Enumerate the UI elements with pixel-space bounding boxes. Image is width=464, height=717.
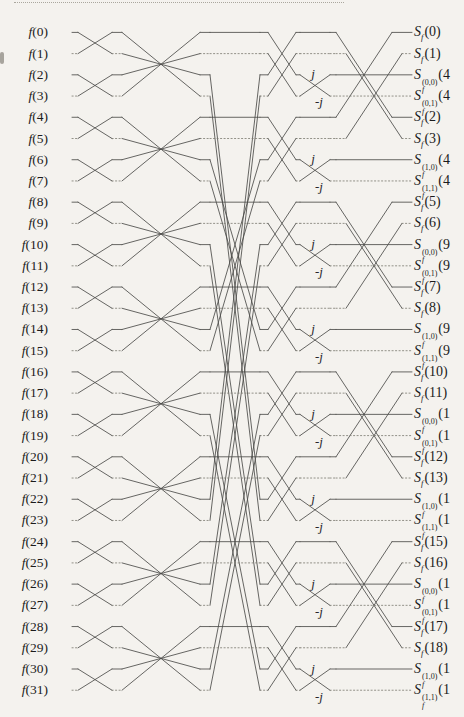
output-label: Sf(16) (414, 554, 448, 572)
output-label: S(1,0)f(9 (414, 320, 450, 338)
output-label: Sf(12) (414, 448, 448, 466)
input-label: f(20) (0, 448, 48, 466)
output-label: S(1,1)f(4 (414, 172, 450, 190)
multiplier-minus-j-label: -j (308, 349, 330, 365)
input-label: f(17) (0, 384, 48, 402)
input-label: f(26) (0, 575, 48, 593)
input-label: f(31) (0, 681, 48, 699)
input-label: f(14) (0, 320, 48, 338)
input-label: f(12) (0, 278, 48, 296)
output-label: S(0,0)f(9 (414, 236, 450, 254)
input-label: f(9) (0, 214, 48, 232)
butterfly-diagram-page: f(0)f(1)f(2)f(3)f(4)f(5)f(6)f(7)f(8)f(9)… (0, 0, 464, 717)
multiplier-j-label: j (302, 236, 324, 252)
multiplier-j-label: j (302, 66, 324, 82)
input-label: f(21) (0, 469, 48, 487)
output-label: Sf(15) (414, 533, 448, 551)
input-label: f(16) (0, 363, 48, 381)
input-label: f(24) (0, 533, 48, 551)
multiplier-minus-j-label: -j (308, 264, 330, 280)
output-label: S(0,1)f(9 (414, 257, 450, 275)
input-label: f(10) (0, 236, 48, 254)
output-label: Sf(11) (414, 384, 447, 402)
input-label: f(3) (0, 87, 48, 105)
input-label: f(19) (0, 427, 48, 445)
input-label: f(5) (0, 130, 48, 148)
output-label: S(0,0)f(1 (414, 575, 450, 593)
output-label: S(0,1)f(4 (414, 87, 450, 105)
output-label: Sf(17) (414, 618, 448, 636)
multiplier-j-label: j (302, 491, 324, 507)
input-label: f(4) (0, 108, 48, 126)
input-label: f(8) (0, 193, 48, 211)
output-label: S(0,1)f(1 (414, 596, 450, 614)
multiplier-minus-j-label: -j (308, 519, 330, 535)
output-label: S(0,0)f(1 (414, 405, 450, 423)
input-label: f(22) (0, 490, 48, 508)
output-label: S(1,1)f(9 (414, 342, 450, 360)
input-label: f(2) (0, 66, 48, 84)
output-label: S(0,1)f(1 (414, 427, 450, 445)
input-label: f(13) (0, 299, 48, 317)
multiplier-j-label: j (302, 321, 324, 337)
output-label: Sf(2) (414, 108, 441, 126)
output-label: Sf(18) (414, 639, 448, 657)
output-label: Sf(13) (414, 469, 448, 487)
output-label: S(1,1)f(1 (414, 511, 450, 529)
multiplier-j-label: j (302, 661, 324, 677)
output-label: S(1,1)f(1 (414, 681, 450, 699)
output-label: S(1,0)f(1 (414, 660, 450, 678)
multiplier-minus-j-label: -j (308, 94, 330, 110)
multiplier-minus-j-label: -j (308, 689, 330, 705)
input-label: f(0) (0, 23, 48, 41)
multiplier-j-label: j (302, 406, 324, 422)
input-label: f(7) (0, 172, 48, 190)
multiplier-j-label: j (302, 576, 324, 592)
output-label: Sf(1) (414, 45, 441, 63)
multiplier-minus-j-label: -j (308, 179, 330, 195)
input-label: f(23) (0, 511, 48, 529)
multiplier-minus-j-label: -j (308, 604, 330, 620)
output-label: S(0,0)f(4 (414, 66, 450, 84)
input-label: f(11) (0, 257, 48, 275)
input-label: f(27) (0, 596, 48, 614)
output-label: Sf(8) (414, 299, 441, 317)
input-label: f(29) (0, 639, 48, 657)
input-label: f(28) (0, 618, 48, 636)
output-label: Sf(5) (414, 193, 441, 211)
input-label: f(30) (0, 660, 48, 678)
output-label: Sf(0) (414, 23, 441, 41)
multiplier-j-label: j (302, 151, 324, 167)
input-label: f(18) (0, 405, 48, 423)
output-label: S(1,0)f(1 (414, 490, 450, 508)
output-label: Sf(7) (414, 278, 441, 296)
flow-network (0, 0, 464, 717)
input-label: f(25) (0, 554, 48, 572)
output-label: Sf(10) (414, 363, 448, 381)
output-label: Sf(6) (414, 214, 441, 232)
output-label: Sf(3) (414, 130, 441, 148)
input-label: f(1) (0, 45, 48, 63)
input-label: f(15) (0, 342, 48, 360)
input-label: f(6) (0, 151, 48, 169)
output-label: S(1,0)f(4 (414, 151, 450, 169)
multiplier-minus-j-label: -j (308, 434, 330, 450)
